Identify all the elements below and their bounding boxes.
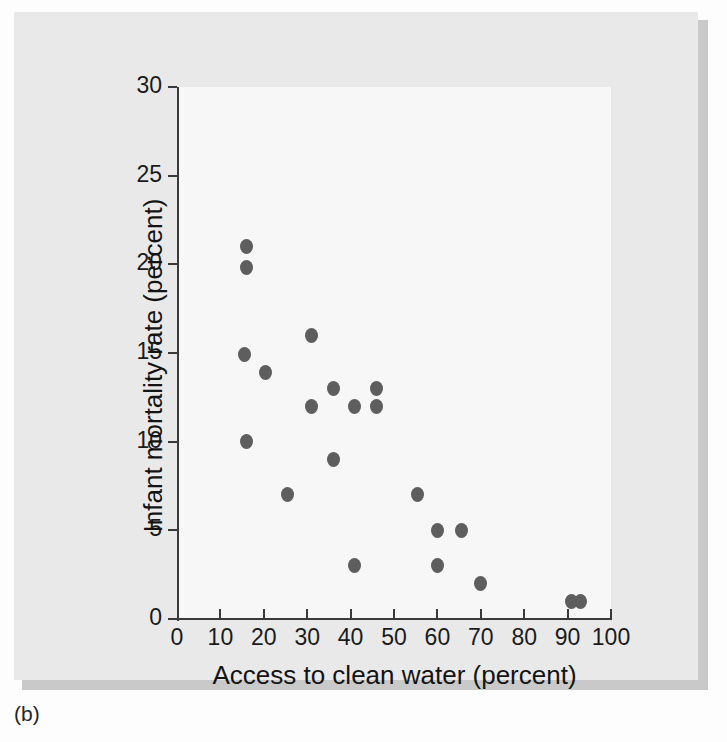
y-tick-mark bbox=[168, 352, 177, 354]
figure-scan: 051015202530 0102030405060708090100 Acce… bbox=[0, 0, 727, 742]
x-axis-title: Access to clean water (percent) bbox=[177, 660, 612, 691]
x-tick-label: 100 bbox=[581, 624, 641, 651]
scatter-point bbox=[370, 381, 383, 396]
x-tick-mark bbox=[350, 609, 352, 618]
scatter-point bbox=[240, 434, 253, 449]
figure-caption: (b) bbox=[14, 702, 40, 726]
chart-panel: 051015202530 0102030405060708090100 Acce… bbox=[14, 12, 698, 680]
y-tick-mark bbox=[168, 263, 177, 265]
scatter-point bbox=[431, 523, 444, 538]
x-tick-mark bbox=[263, 609, 265, 618]
scatter-point bbox=[574, 594, 587, 609]
scatter-point bbox=[238, 347, 251, 362]
x-tick-mark bbox=[436, 609, 438, 618]
x-tick-mark bbox=[480, 609, 482, 618]
scatter-point bbox=[240, 239, 253, 254]
scatter-point bbox=[370, 399, 383, 414]
x-tick-mark bbox=[393, 609, 395, 618]
x-tick-mark bbox=[306, 609, 308, 618]
scatter-point bbox=[327, 381, 340, 396]
y-tick-mark bbox=[168, 618, 177, 620]
y-axis-line bbox=[177, 87, 179, 621]
y-tick-label: 30 bbox=[110, 72, 162, 99]
y-tick-mark bbox=[168, 86, 177, 88]
scatter-point bbox=[327, 452, 340, 467]
y-tick-mark bbox=[168, 175, 177, 177]
y-tick-mark bbox=[168, 441, 177, 443]
y-axis-title: Infant mortality rate (percent) bbox=[138, 106, 169, 626]
x-tick-mark bbox=[219, 609, 221, 618]
x-axis-line bbox=[177, 618, 612, 620]
x-tick-mark bbox=[567, 609, 569, 618]
scatter-point bbox=[455, 523, 468, 538]
scatter-point bbox=[305, 399, 318, 414]
y-tick-mark bbox=[168, 529, 177, 531]
scatter-point bbox=[305, 328, 318, 343]
x-tick-mark bbox=[610, 609, 612, 618]
x-tick-mark bbox=[523, 609, 525, 618]
